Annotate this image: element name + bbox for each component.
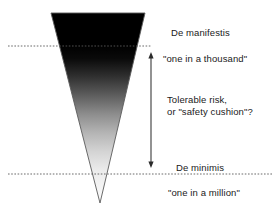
tolerable-risk-range-arrow	[148, 52, 153, 168]
label-tolerable-risk: Tolerable risk, or "safety cushion"?	[167, 94, 253, 118]
range-arrow-head-up	[148, 52, 153, 59]
label-one-in-a-thousand: "one in a thousand"	[163, 53, 247, 65]
risk-cone-shape	[51, 13, 145, 203]
label-de-manifestis: De manifestis	[171, 27, 230, 39]
range-arrow-head-down	[148, 162, 153, 169]
label-one-in-a-million: "one in a million"	[168, 187, 240, 199]
risk-cone-diagram: De manifestis "one in a thousand" Tolera…	[0, 0, 279, 210]
label-de-minimis: De minimis	[176, 162, 224, 174]
